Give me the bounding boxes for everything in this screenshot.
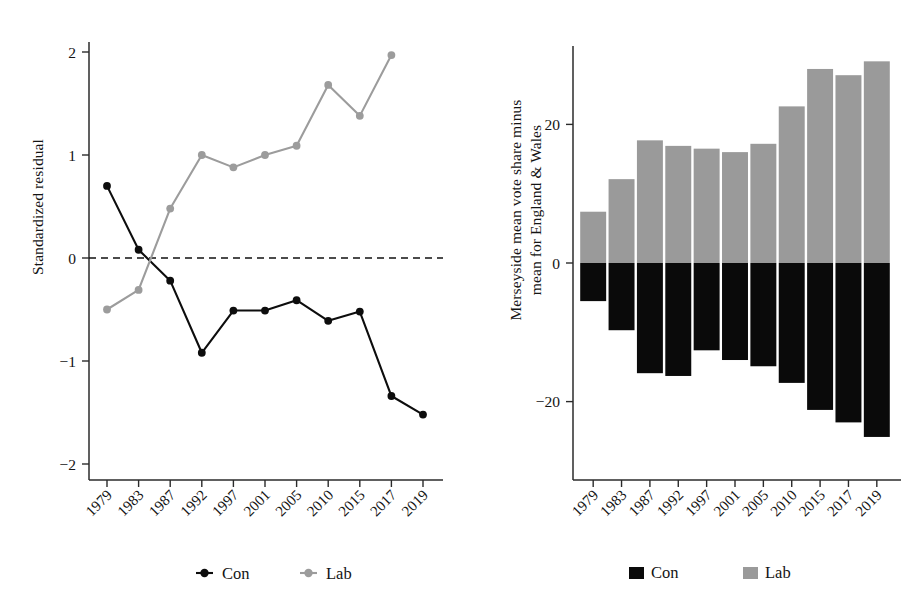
left-y-axis-label: Standardized residual [29,107,47,307]
right-y-tick-label: 0 [552,255,560,272]
left-data-point-lab [356,112,364,120]
left-data-point-con [230,307,238,315]
left-data-point-lab [324,81,332,89]
left-data-point-con [198,349,206,357]
right-x-tick-label: 2001 [711,487,744,520]
right-x-tick-label: 2010 [767,487,800,520]
left-data-point-con [293,296,301,304]
left-data-point-con [419,411,427,419]
left-y-tick-label: 0 [68,250,76,267]
left-data-point-con [166,277,174,285]
left-data-point-con [388,392,396,400]
right-bars-group [580,61,890,437]
right-bar-con [665,263,691,376]
left-x-tick-label: 2001 [241,487,274,520]
left-x-tick-label: 1987 [146,486,179,519]
right-legend-swatch-con [629,567,644,579]
left-x-tick-label: 2015 [335,487,368,520]
left-data-point-lab [135,286,143,294]
left-y-tick-label: 1 [68,147,76,164]
right-bar-con [807,263,833,410]
left-legend-label-lab: Lab [326,564,352,583]
right-bar-lab [694,149,720,263]
left-y-tick-labels: 210−1−2 [60,44,77,473]
right-x-tick-label: 2005 [739,487,772,520]
right-bar-con [750,263,776,366]
right-bar-lab [637,140,663,263]
left-data-point-lab [230,163,238,171]
right-chart-panel: Merseyside mean vote share minus mean fo… [461,0,922,606]
left-legend: ConLab [196,564,352,583]
right-bar-lab [722,152,748,263]
left-data-point-con [324,317,332,325]
left-legend-label-con: Con [222,564,250,583]
left-series-group [103,51,427,418]
figure-root: Standardized residual 197919831987199219… [0,0,922,606]
left-x-tick-label: 1997 [209,486,242,519]
left-x-tick-label: 1979 [83,487,116,520]
right-legend-label-con: Con [651,563,679,582]
right-x-tick-label: 1992 [654,487,687,520]
right-y-tick-label: 20 [545,116,561,133]
right-bar-lab [779,106,805,263]
right-bar-con [864,263,890,437]
right-bar-lab [665,146,691,263]
left-x-tick-label: 2019 [399,487,432,520]
left-data-point-lab [388,51,396,59]
left-data-point-con [135,246,143,254]
right-x-tick-label: 1983 [597,487,630,520]
right-bar-con [609,263,635,330]
right-bar-con [835,263,861,422]
right-y-tick-label: −20 [536,393,560,410]
left-data-point-lab [293,142,301,150]
left-axes [82,42,443,487]
right-y-axis-label-line1: Merseyside mean vote share minus [507,60,525,360]
right-x-tick-label: 1987 [626,486,659,519]
left-x-tick-label: 1992 [177,487,210,520]
right-bar-con [722,263,748,360]
right-bar-con [580,263,606,301]
right-x-tick-label: 1997 [682,486,715,519]
right-bar-con [637,263,663,373]
right-bar-lab [835,75,861,263]
left-x-tick-label: 2005 [272,487,305,520]
left-x-tick-label: 2017 [367,486,400,519]
right-bar-con [779,263,805,383]
right-bar-lab [864,61,890,263]
left-data-point-con [261,307,269,315]
left-data-point-lab [198,151,206,159]
right-legend-swatch-lab [743,567,758,579]
left-y-tick-label: −2 [60,456,77,473]
left-x-tick-labels: 1979198319871992199720012005201020152017… [83,486,432,519]
left-data-point-con [103,182,111,190]
right-y-axis-label-line2: mean for England & Wales [527,60,545,360]
right-bar-con [694,263,720,350]
right-bar-lab [609,179,635,263]
left-y-tick-label: 2 [68,44,76,61]
left-x-tick-label: 1983 [114,487,147,520]
right-x-tick-label: 2019 [852,487,885,520]
right-legend-label-lab: Lab [765,563,791,582]
left-x-tick-label: 2010 [304,487,337,520]
left-series-line-lab [107,55,391,309]
left-data-point-lab [261,151,269,159]
left-data-point-lab [103,306,111,314]
right-x-tick-label: 2017 [824,486,857,519]
right-x-tick-labels: 1979198319871992199720012005201020152017… [569,486,885,519]
left-legend-marker-dot-lab [304,569,312,577]
right-legend: ConLab [629,563,791,582]
right-bar-lab [750,144,776,263]
left-data-point-lab [166,205,174,213]
left-legend-marker-dot-con [200,569,208,577]
left-data-point-con [356,308,364,316]
right-x-tick-label: 1979 [569,487,602,520]
right-bar-lab [580,212,606,263]
left-series-line-con [107,186,423,415]
left-chart-panel: Standardized residual 197919831987199219… [0,0,461,606]
left-y-tick-label: −1 [60,353,77,370]
left-chart-svg: 1979198319871992199720012005201020152017… [0,0,461,606]
right-bar-lab [807,69,833,263]
right-x-tick-label: 2015 [796,487,829,520]
